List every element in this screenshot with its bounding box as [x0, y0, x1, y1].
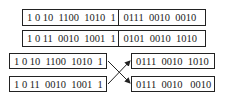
crossover-arrows: [0, 0, 227, 100]
